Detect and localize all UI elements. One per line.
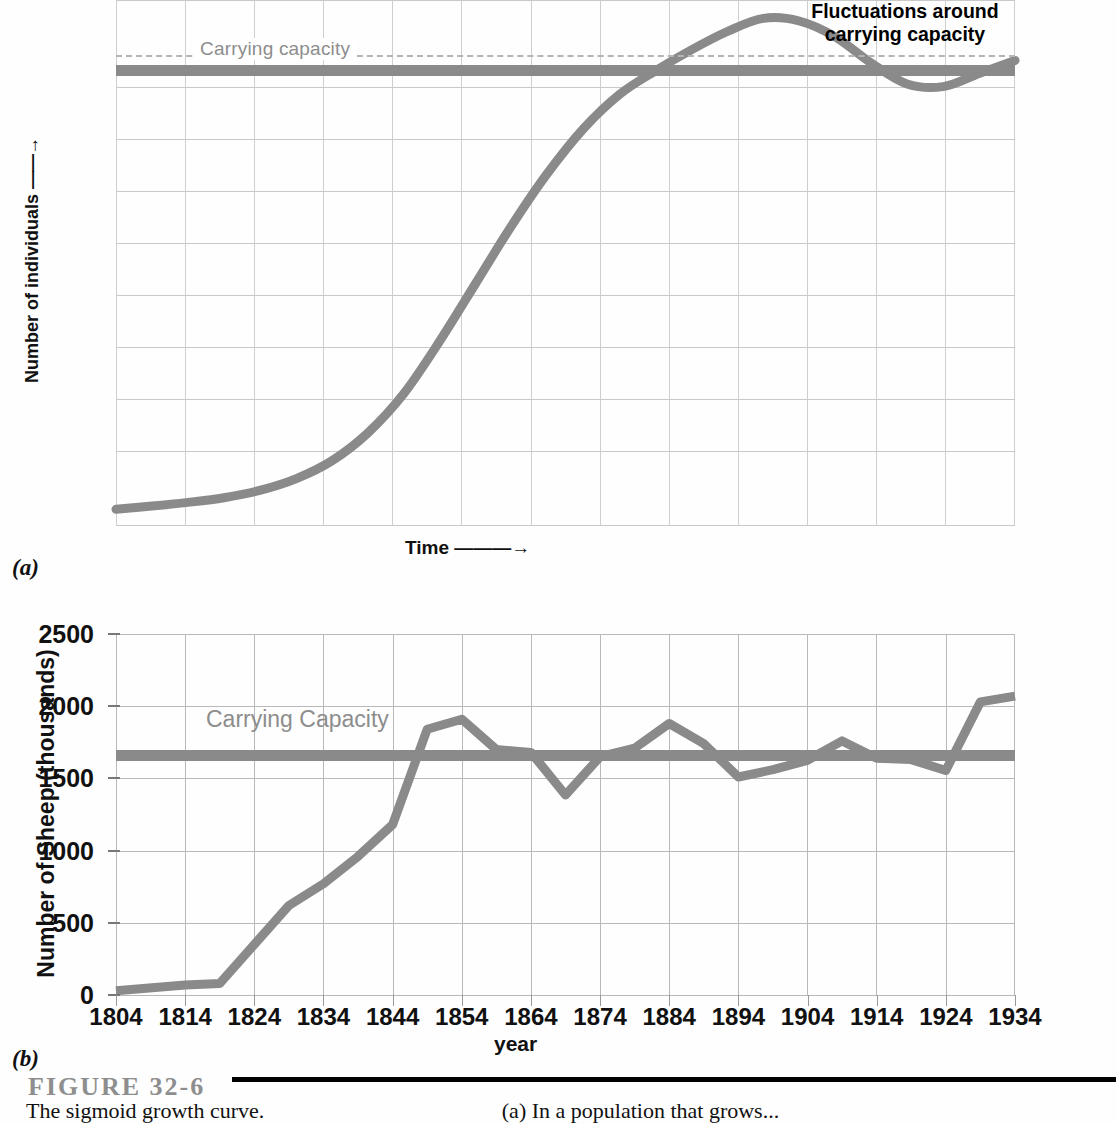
carrying-capacity-label-b: Carrying Capacity [206, 706, 389, 733]
x-axis-tick-label: 1914 [850, 1003, 903, 1031]
x-axis-tick-label: 1814 [158, 1003, 211, 1031]
x-axis-tick-mark [1015, 995, 1016, 1006]
y-axis-tick-mark [108, 777, 120, 779]
caption-fragment-right: (a) In a population that grows... [502, 1098, 779, 1124]
y-axis-tick-label: 1500 [38, 764, 94, 793]
panel-b-curve-svg [116, 634, 1015, 995]
y-axis-tick-mark [108, 922, 120, 924]
x-axis-tick-label: 1874 [573, 1003, 626, 1031]
grid-line-horizontal [116, 995, 1015, 996]
carrying-capacity-line-b [116, 750, 1015, 761]
x-axis-tick-mark [254, 995, 255, 1006]
x-axis-tick-mark [531, 995, 532, 1006]
x-axis-tick-mark [669, 995, 670, 1006]
sheep-population-line [116, 696, 1015, 991]
x-axis-tick-label: 1844 [366, 1003, 419, 1031]
figure-caption: The sigmoid growth curve. (a) In a popul… [26, 1098, 1116, 1124]
y-axis-tick-label: 2500 [38, 620, 94, 649]
x-axis-tick-label: 1834 [297, 1003, 350, 1031]
caption-rule [232, 1077, 1116, 1082]
x-axis-tick-mark [600, 995, 601, 1006]
x-axis-tick-mark [116, 995, 117, 1006]
panel-b-x-axis-label: year [494, 1032, 537, 1056]
y-axis-tick-mark [108, 850, 120, 852]
x-axis-tick-label: 1894 [712, 1003, 765, 1031]
y-axis-tick-mark [108, 994, 120, 996]
x-axis-tick-mark [393, 995, 394, 1006]
panel-b-tag: (b) [12, 1046, 39, 1072]
x-axis-tick-mark [185, 995, 186, 1006]
y-axis-tick-mark [108, 705, 120, 707]
panel-b-y-axis-label: Number of Sheep (thousands) [33, 614, 60, 1014]
x-axis-tick-mark [946, 995, 947, 1006]
x-axis-tick-mark [738, 995, 739, 1006]
y-axis-tick-label: 500 [52, 908, 94, 937]
y-axis-tick-label: 1000 [38, 836, 94, 865]
caption-fragment-left: The sigmoid growth curve. [26, 1098, 264, 1124]
x-axis-tick-label: 1804 [89, 1003, 142, 1031]
panel-b-plot-area [116, 634, 1015, 995]
x-axis-tick-label: 1854 [435, 1003, 488, 1031]
x-axis-tick-label: 1884 [643, 1003, 696, 1031]
x-axis-tick-mark [323, 995, 324, 1006]
y-axis-tick-mark [108, 633, 120, 635]
x-axis-tick-label: 1824 [228, 1003, 281, 1031]
x-axis-tick-label: 1934 [988, 1003, 1041, 1031]
x-axis-tick-mark [877, 995, 878, 1006]
x-axis-tick-mark [808, 995, 809, 1006]
x-axis-tick-mark [462, 995, 463, 1006]
y-axis-tick-label: 2000 [38, 692, 94, 721]
x-axis-tick-label: 1924 [919, 1003, 972, 1031]
x-axis-tick-label: 1864 [504, 1003, 557, 1031]
x-axis-tick-label: 1904 [781, 1003, 834, 1031]
